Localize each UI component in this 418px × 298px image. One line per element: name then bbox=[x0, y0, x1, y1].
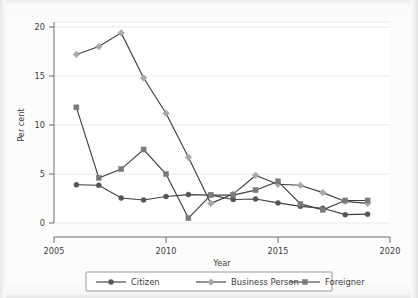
figure-root: 20 15 10 5 0 Per cent 2005 2010 2015 202… bbox=[0, 0, 418, 298]
data-point-square-marker bbox=[298, 201, 303, 206]
data-point-square-marker bbox=[365, 198, 370, 203]
data-point-square-marker bbox=[276, 179, 281, 184]
data-point-circle-marker bbox=[119, 196, 124, 201]
data-point-circle-marker bbox=[141, 197, 146, 202]
data-point-square-marker bbox=[164, 172, 169, 177]
chart-svg: 20 15 10 5 0 Per cent 2005 2010 2015 202… bbox=[0, 0, 418, 298]
legend-label: Foreigner bbox=[325, 277, 365, 287]
line-chart: 20 15 10 5 0 Per cent 2005 2010 2015 202… bbox=[0, 0, 418, 298]
data-point-square-marker bbox=[320, 207, 325, 212]
legend-entries: CitizenBusiness PersonForeigner bbox=[96, 277, 365, 287]
x-axis-title: Year bbox=[212, 258, 231, 268]
legend: CitizenBusiness PersonForeigner bbox=[86, 272, 365, 291]
data-point-square-marker bbox=[231, 193, 236, 198]
x-tick-label: 2015 bbox=[268, 246, 289, 256]
data-point-square-marker bbox=[208, 193, 213, 198]
legend-marker-circle bbox=[109, 280, 114, 285]
y-tick-label: 20 bbox=[35, 22, 45, 32]
x-axis-tick-labels: 2005 2010 2015 2020 bbox=[44, 246, 401, 256]
data-point-circle-marker bbox=[164, 194, 169, 199]
y-tick-label: 10 bbox=[35, 120, 45, 130]
data-point-circle-marker bbox=[343, 212, 348, 217]
data-point-square-marker bbox=[253, 188, 258, 193]
y-tick-label: 15 bbox=[35, 71, 45, 81]
plot-area-background bbox=[54, 22, 390, 223]
legend-marker-square bbox=[303, 280, 308, 285]
data-point-square-marker bbox=[119, 167, 124, 172]
data-point-square-marker bbox=[141, 147, 146, 152]
x-tick-label: 2020 bbox=[380, 246, 401, 256]
y-tick-label: 5 bbox=[40, 169, 45, 179]
y-axis-tick-labels: 20 15 10 5 0 bbox=[35, 22, 45, 228]
data-point-circle-marker bbox=[96, 183, 101, 188]
x-axis-ticks bbox=[54, 237, 390, 243]
y-axis-ticks bbox=[49, 27, 54, 223]
data-point-circle-marker bbox=[186, 192, 191, 197]
x-tick-label: 2005 bbox=[44, 246, 65, 256]
y-tick-label: 0 bbox=[40, 218, 45, 228]
data-point-square-marker bbox=[343, 198, 348, 203]
data-point-circle-marker bbox=[74, 182, 79, 187]
data-point-circle-marker bbox=[365, 212, 370, 217]
legend-label: Citizen bbox=[131, 277, 160, 287]
data-point-square-marker bbox=[96, 175, 101, 180]
data-point-square-marker bbox=[186, 216, 191, 221]
x-tick-label: 2010 bbox=[156, 246, 177, 256]
data-point-circle-marker bbox=[253, 196, 258, 201]
y-axis-title: Per cent bbox=[16, 107, 26, 141]
legend-label: Business Person bbox=[231, 277, 299, 287]
data-point-square-marker bbox=[74, 105, 79, 110]
data-point-circle-marker bbox=[276, 200, 281, 205]
